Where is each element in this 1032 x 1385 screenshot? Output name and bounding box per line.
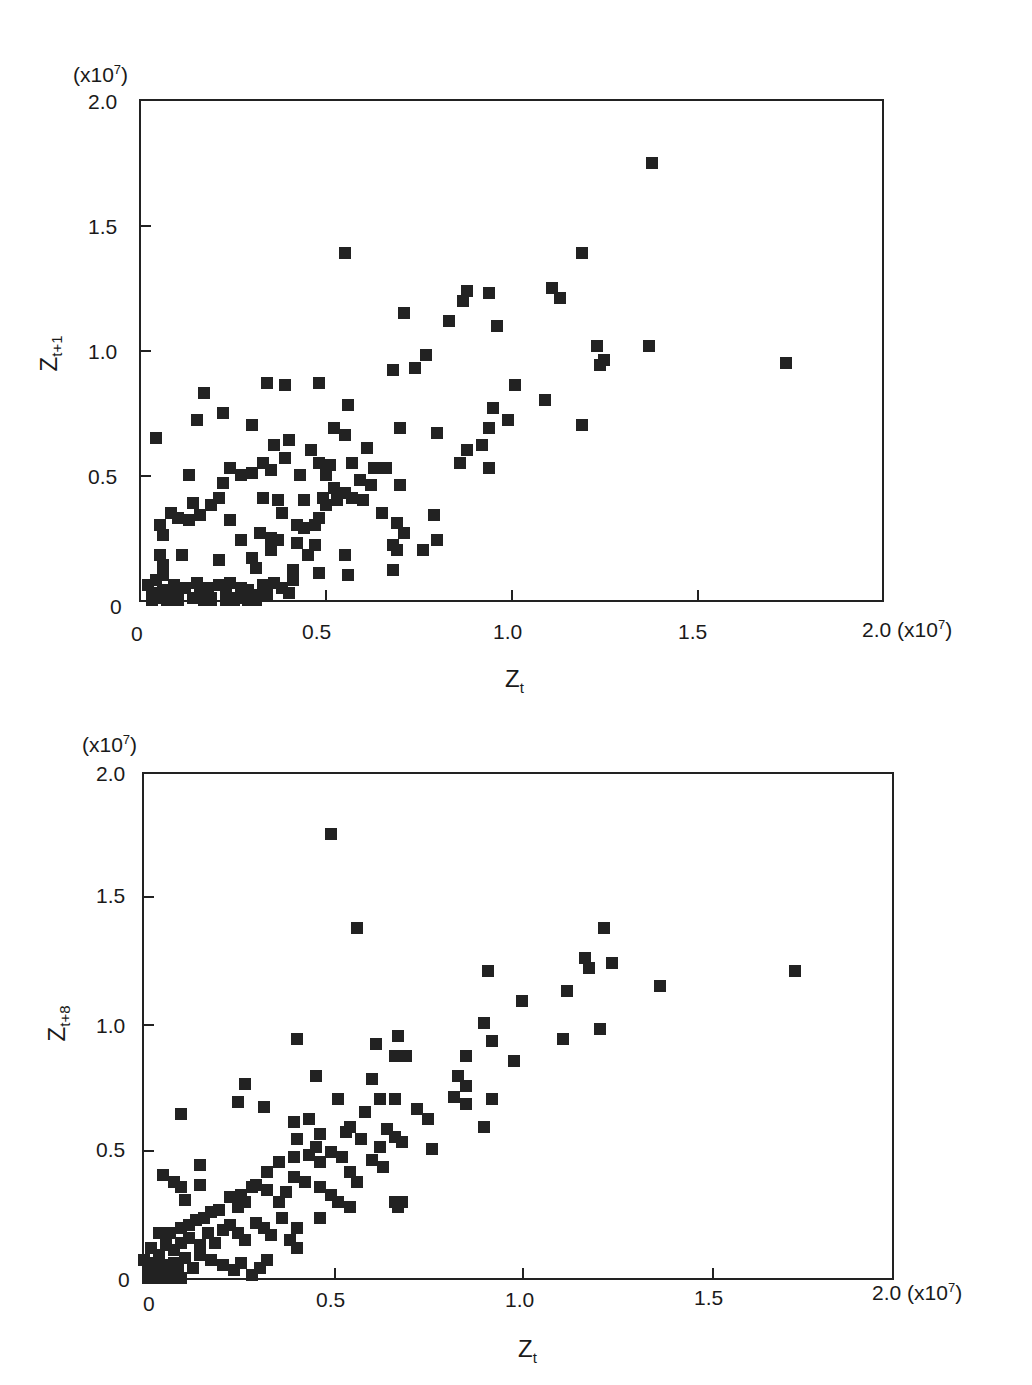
data-point <box>314 1156 326 1168</box>
data-point <box>486 1035 498 1047</box>
data-point <box>583 962 595 974</box>
data-point <box>606 957 618 969</box>
data-point <box>539 394 551 406</box>
data-point <box>376 507 388 519</box>
data-point <box>213 554 225 566</box>
data-point <box>394 479 406 491</box>
data-point <box>483 462 495 474</box>
data-point <box>361 442 373 454</box>
x-tick <box>712 1268 714 1278</box>
data-point <box>291 1133 303 1145</box>
data-point <box>394 422 406 434</box>
data-point <box>374 1141 386 1153</box>
data-point <box>246 467 258 479</box>
data-point <box>396 1136 408 1148</box>
data-point <box>377 1161 389 1173</box>
data-point <box>272 494 284 506</box>
data-point <box>246 1181 258 1193</box>
data-point <box>461 444 473 456</box>
data-point <box>239 1234 251 1246</box>
data-point <box>239 1196 251 1208</box>
data-point <box>502 414 514 426</box>
data-point <box>400 1050 412 1062</box>
data-point <box>157 1272 169 1284</box>
data-point <box>365 479 377 491</box>
y-tick-label: 2.0 <box>96 762 125 786</box>
data-point <box>179 1194 191 1206</box>
data-point <box>339 247 351 259</box>
data-point <box>314 1128 326 1140</box>
data-point <box>478 1017 490 1029</box>
data-point <box>398 527 410 539</box>
data-point <box>235 1257 247 1269</box>
data-point <box>420 349 432 361</box>
data-point <box>431 534 443 546</box>
data-point <box>175 1272 187 1284</box>
data-point <box>359 1106 371 1118</box>
data-point <box>325 828 337 840</box>
data-point <box>366 1073 378 1085</box>
y-tick-label: 1.5 <box>96 884 125 908</box>
data-point <box>294 469 306 481</box>
data-point <box>279 379 291 391</box>
data-point <box>194 1179 206 1191</box>
data-point <box>191 414 203 426</box>
data-point <box>198 387 210 399</box>
data-point <box>370 1038 382 1050</box>
data-point <box>789 965 801 977</box>
x-tick-label: 0 <box>143 1292 155 1316</box>
data-point <box>288 1116 300 1128</box>
data-point <box>250 562 262 574</box>
data-point <box>254 1262 266 1274</box>
data-point <box>146 594 158 606</box>
y-tick-label: 0.5 <box>96 1138 125 1162</box>
data-point <box>310 1141 322 1153</box>
data-point <box>380 462 392 474</box>
data-point <box>598 354 610 366</box>
x-tick-label: 1.0 <box>493 620 522 644</box>
data-point <box>194 1249 206 1261</box>
data-point <box>261 1184 273 1196</box>
data-point <box>205 1254 217 1266</box>
data-point <box>460 1080 472 1092</box>
data-point <box>288 1171 300 1183</box>
data-point <box>576 247 588 259</box>
data-point <box>279 452 291 464</box>
data-point <box>428 509 440 521</box>
data-point <box>228 594 240 606</box>
plot-area <box>139 99 884 602</box>
x-tick <box>325 590 327 600</box>
data-point <box>183 469 195 481</box>
data-point <box>487 402 499 414</box>
y-unit-label: (x107) <box>82 732 137 757</box>
data-point <box>332 1093 344 1105</box>
y-tick <box>144 1024 154 1026</box>
data-point <box>491 320 503 332</box>
data-point <box>213 1204 225 1216</box>
data-point <box>280 1186 292 1198</box>
data-point <box>366 1154 378 1166</box>
data-point <box>591 340 603 352</box>
data-point <box>344 1121 356 1133</box>
y-tick-label: 1.0 <box>88 340 117 364</box>
y-tick-label: 0 <box>118 1268 130 1292</box>
y-tick <box>144 1150 154 1152</box>
data-point <box>276 507 288 519</box>
data-point <box>325 1146 337 1158</box>
data-point <box>265 464 277 476</box>
data-point <box>561 985 573 997</box>
data-point <box>646 157 658 169</box>
data-point <box>454 457 466 469</box>
data-point <box>448 1091 460 1103</box>
data-point <box>164 1227 176 1239</box>
data-point <box>431 427 443 439</box>
data-point <box>643 340 655 352</box>
data-point <box>298 494 310 506</box>
data-point <box>482 965 494 977</box>
data-point <box>478 1121 490 1133</box>
data-point <box>336 1151 348 1163</box>
x-tick-label: 1.5 <box>678 620 707 644</box>
data-point <box>320 469 332 481</box>
data-point <box>346 457 358 469</box>
data-point <box>332 1196 344 1208</box>
